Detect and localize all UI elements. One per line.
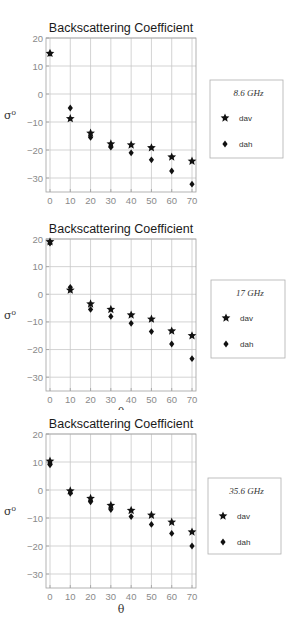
chart-svg: Backscattering Coefficient01020304050607… xyxy=(0,205,298,410)
x-tick-label: 40 xyxy=(126,195,137,205)
chart-title: Backscattering Coefficient xyxy=(49,417,194,431)
legend: 17 GHzdavdah xyxy=(211,280,285,358)
legend-label-dav: dav xyxy=(237,512,250,521)
data-point-dah xyxy=(169,341,174,348)
data-point-dah xyxy=(129,149,134,156)
plot-frame xyxy=(46,434,196,588)
y-axis-label: σ⁰ xyxy=(4,505,17,518)
x-tick-label: 20 xyxy=(85,591,96,602)
x-tick-label: 10 xyxy=(65,591,76,602)
y-tick-label: 0 xyxy=(38,89,43,100)
data-point-dah xyxy=(189,181,194,188)
y-tick-label: 0 xyxy=(38,289,43,300)
legend-label-dav: dav xyxy=(239,114,252,123)
chart-svg: Backscattering Coefficient01020304050607… xyxy=(0,0,298,205)
data-point-dah xyxy=(149,521,154,528)
x-tick-label: 10 xyxy=(65,394,76,405)
data-point-dah xyxy=(149,328,154,335)
x-tick-label: 50 xyxy=(146,394,157,405)
y-tick-label: −20 xyxy=(27,145,43,156)
data-point-dah xyxy=(169,530,174,537)
y-tick-label: −30 xyxy=(27,372,43,383)
data-point-dah xyxy=(129,513,134,520)
x-tick-label: 0 xyxy=(47,394,52,405)
data-point-dah xyxy=(189,355,194,362)
x-axis-label: θ xyxy=(118,603,125,616)
x-tick-label: 0 xyxy=(47,195,52,205)
x-tick-label: 10 xyxy=(65,195,76,205)
legend: 8.6 GHzdavdah xyxy=(210,80,283,158)
y-tick-label: 10 xyxy=(32,261,43,272)
y-tick-label: 0 xyxy=(38,485,43,496)
chart-title: Backscattering Coefficient xyxy=(49,222,194,236)
plot-frame xyxy=(46,239,196,391)
x-tick-label: 40 xyxy=(126,591,137,602)
y-tick-label: −10 xyxy=(27,513,43,524)
x-tick-label: 30 xyxy=(106,591,117,602)
legend-label-dah: dah xyxy=(240,340,253,349)
x-tick-label: 60 xyxy=(166,394,177,405)
data-point-dah xyxy=(149,156,154,163)
x-tick-label: 50 xyxy=(146,591,157,602)
x-tick-label: 50 xyxy=(146,195,157,205)
x-tick-label: 70 xyxy=(187,591,198,602)
x-tick-label: 70 xyxy=(187,394,198,405)
y-tick-label: 20 xyxy=(32,429,43,440)
x-tick-label: 20 xyxy=(85,394,96,405)
x-tick-label: 70 xyxy=(187,195,198,205)
plot-frame xyxy=(46,38,196,192)
legend-title: 17 GHz xyxy=(236,288,264,298)
y-tick-label: 10 xyxy=(32,457,43,468)
y-tick-label: −10 xyxy=(27,316,43,327)
legend-label-dav: dav xyxy=(240,314,253,323)
y-tick-label: 10 xyxy=(32,61,43,72)
y-tick-label: −20 xyxy=(27,541,43,552)
legend-label-dah: dah xyxy=(239,140,252,149)
legend-label-dah: dah xyxy=(237,538,250,547)
y-tick-label: 20 xyxy=(32,33,43,44)
y-axis-label: σ⁰ xyxy=(4,109,17,122)
data-point-dah xyxy=(108,313,113,320)
data-point-dah xyxy=(189,543,194,550)
y-tick-label: −30 xyxy=(27,569,43,580)
y-tick-label: −30 xyxy=(27,173,43,184)
y-tick-label: −20 xyxy=(27,344,43,355)
chart-title: Backscattering Coefficient xyxy=(49,21,194,35)
x-tick-label: 60 xyxy=(166,195,177,205)
data-point-dah xyxy=(169,168,174,175)
y-tick-label: −10 xyxy=(27,117,43,128)
chart-17ghz: Backscattering Coefficient01020304050607… xyxy=(0,205,298,410)
legend-title: 8.6 GHz xyxy=(233,88,263,98)
legend-title: 35.6 GHz xyxy=(228,486,264,496)
chart-svg: Backscattering Coefficient01020304050607… xyxy=(0,410,298,632)
x-tick-label: 0 xyxy=(47,591,52,602)
x-tick-label: 30 xyxy=(106,394,117,405)
legend: 35.6 GHzdavdah xyxy=(208,478,281,554)
x-tick-label: 30 xyxy=(106,195,117,205)
x-tick-label: 40 xyxy=(126,394,137,405)
chart-35-6ghz: Backscattering Coefficient01020304050607… xyxy=(0,410,298,632)
y-tick-label: 20 xyxy=(32,234,43,245)
x-tick-label: 60 xyxy=(166,591,177,602)
data-point-dah xyxy=(68,105,73,112)
x-tick-label: 20 xyxy=(85,195,96,205)
chart-8-6ghz: Backscattering Coefficient01020304050607… xyxy=(0,0,298,205)
y-axis-label: σ⁰ xyxy=(4,309,17,322)
data-point-dah xyxy=(129,320,134,327)
